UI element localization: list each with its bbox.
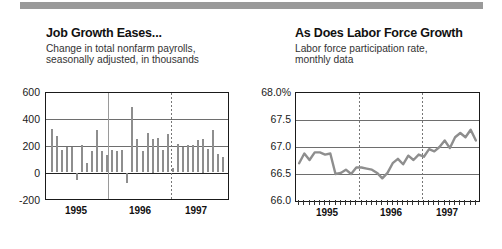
chart-subtitle-line1-job-growth: Change in total nonfarm payrolls, xyxy=(46,43,196,55)
bar xyxy=(76,173,78,181)
zero-line xyxy=(46,173,228,174)
bar xyxy=(121,150,123,173)
x-axis-tick xyxy=(412,200,413,205)
x-axis-tick xyxy=(470,200,471,205)
bar xyxy=(106,155,108,172)
x-axis-tick xyxy=(459,200,460,205)
x-tick-1997: 1997 xyxy=(436,207,458,218)
gridline-400 xyxy=(46,119,228,120)
y-tick-68-0: 68.0% xyxy=(251,86,291,98)
x-axis-tick xyxy=(392,200,393,205)
bar xyxy=(172,168,174,173)
chart-subtitle-line2-labor-force: monthly data xyxy=(295,54,353,66)
x-axis-tick xyxy=(319,200,320,205)
top-divider-bar xyxy=(20,2,483,9)
bar xyxy=(66,147,68,172)
x-axis-tick xyxy=(433,200,434,205)
x-axis-tick xyxy=(428,200,429,205)
bar xyxy=(187,145,189,173)
bar xyxy=(51,129,53,173)
page-title-job-growth: Job Growth Eases... xyxy=(46,26,162,40)
x-axis-tick xyxy=(324,200,325,205)
x-axis-tick xyxy=(340,200,341,205)
x-axis-tick xyxy=(355,200,356,205)
bar xyxy=(91,151,93,173)
bar xyxy=(217,154,219,173)
charts-container: Job Growth Eases... Change in total nonf… xyxy=(0,9,502,249)
plot-frame-job-growth xyxy=(45,92,229,200)
x-axis-tick xyxy=(298,200,299,205)
x-tick-1995: 1995 xyxy=(316,207,338,218)
bar xyxy=(182,147,184,173)
y-tick-200: 200 xyxy=(0,140,40,152)
chart-subtitle-line1-labor-force: Labor force participation rate, xyxy=(295,43,428,55)
x-axis-tick xyxy=(366,200,367,205)
bar xyxy=(202,139,204,172)
bar xyxy=(192,145,194,172)
bar xyxy=(96,130,98,172)
bar xyxy=(157,138,159,172)
x-axis-tick xyxy=(335,200,336,205)
chart-panel-labor-force: As Does Labor Force Growth Labor force p… xyxy=(251,9,502,249)
x-axis-tick xyxy=(397,200,398,205)
y-tick-66-0: 66.0 xyxy=(251,194,291,206)
bar xyxy=(56,136,58,172)
bar xyxy=(86,163,88,173)
bar xyxy=(167,134,169,172)
bar xyxy=(162,150,164,173)
line-series-labor-force xyxy=(296,93,479,201)
x-axis-tick xyxy=(449,200,450,205)
x-axis-tick xyxy=(371,200,372,205)
x-axis-tick xyxy=(345,200,346,205)
x-axis-tick xyxy=(361,200,362,205)
y-tick-66-5: 66.5 xyxy=(251,167,291,179)
bar xyxy=(116,151,118,173)
line-path xyxy=(299,130,476,179)
bar xyxy=(61,150,63,173)
page-title-labor-force: As Does Labor Force Growth xyxy=(295,26,463,40)
bar xyxy=(212,130,214,172)
plot-area-job-growth xyxy=(45,92,229,200)
x-tick-1995: 1995 xyxy=(65,205,87,216)
year-divider-1995-1996 xyxy=(108,93,109,199)
bar xyxy=(147,133,149,172)
x-tick-1996: 1996 xyxy=(129,205,151,216)
bar xyxy=(131,107,133,173)
y-tick-67-5: 67.5 xyxy=(251,113,291,125)
bar xyxy=(111,150,113,173)
x-axis-tick xyxy=(402,200,403,205)
bar xyxy=(222,157,224,173)
x-axis-tick xyxy=(475,200,476,205)
x-tick-1996: 1996 xyxy=(380,207,402,218)
y-tick-0: 0 xyxy=(0,167,40,179)
x-axis-tick xyxy=(454,200,455,205)
bar xyxy=(136,139,138,173)
bar xyxy=(81,145,83,172)
x-axis-tick xyxy=(387,200,388,205)
year-divider-1996-1997 xyxy=(171,93,172,199)
bar xyxy=(152,139,154,172)
bar xyxy=(142,151,144,172)
x-axis-tick xyxy=(303,200,304,205)
x-axis-tick xyxy=(309,200,310,205)
bar xyxy=(197,140,199,172)
x-axis-tick xyxy=(444,200,445,205)
y-tick-600: 600 xyxy=(0,86,40,98)
x-axis-tick xyxy=(314,200,315,205)
x-axis-tick xyxy=(464,200,465,205)
x-axis-tick xyxy=(376,200,377,205)
x-axis-tick xyxy=(350,200,351,205)
y-tick-minus200: -200 xyxy=(0,194,40,206)
x-axis-tick xyxy=(418,200,419,205)
x-axis-tick xyxy=(407,200,408,205)
x-tick-1997: 1997 xyxy=(185,205,207,216)
bar xyxy=(71,147,73,172)
y-tick-400: 400 xyxy=(0,113,40,125)
bar xyxy=(126,173,128,184)
x-axis-tick xyxy=(438,200,439,205)
chart-subtitle-line2-job-growth: seasonally adjusted, in thousands xyxy=(46,54,199,66)
bar xyxy=(177,144,179,172)
bar xyxy=(207,149,209,173)
x-axis-tick xyxy=(381,200,382,205)
plot-frame-labor-force xyxy=(295,92,480,202)
